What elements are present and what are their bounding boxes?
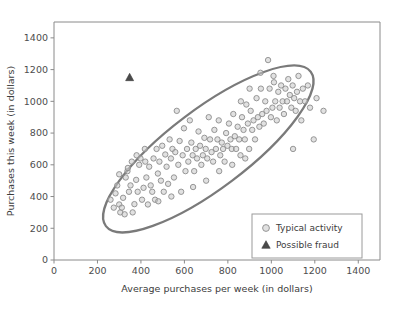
data-point-typical-activity	[189, 140, 194, 145]
data-point-typical-activity	[219, 140, 224, 145]
data-point-typical-activity	[122, 212, 127, 217]
data-point-typical-activity	[174, 108, 179, 113]
data-point-typical-activity	[135, 189, 140, 194]
data-point-typical-activity	[242, 137, 247, 142]
data-point-typical-activity	[141, 185, 146, 190]
data-point-typical-activity	[206, 115, 211, 120]
data-point-typical-activity	[146, 164, 151, 169]
x-tick-label: 400	[132, 265, 150, 276]
data-point-typical-activity	[271, 73, 276, 78]
data-point-typical-activity	[277, 105, 282, 110]
data-point-typical-activity	[250, 127, 255, 132]
data-point-typical-activity	[252, 137, 257, 142]
scatter-plot-figure: 0200400600800100012001400 02004006008001…	[0, 0, 399, 317]
data-point-typical-activity	[180, 153, 185, 158]
x-tick-label: 200	[88, 265, 106, 276]
data-point-typical-activity	[111, 205, 116, 210]
data-point-typical-activity	[284, 99, 289, 104]
x-tick-label: 1400	[346, 265, 370, 276]
data-point-typical-activity	[133, 177, 138, 182]
data-point-typical-activity	[168, 156, 173, 161]
y-tick-label: 600	[30, 159, 48, 170]
data-point-typical-activity	[173, 149, 178, 154]
data-point-typical-activity	[267, 86, 272, 91]
data-point-typical-activity	[216, 118, 221, 123]
data-point-typical-activity	[115, 183, 120, 188]
data-point-typical-activity	[128, 183, 133, 188]
x-tick-label: 800	[219, 265, 237, 276]
data-point-typical-activity	[223, 130, 228, 135]
data-point-typical-activity	[148, 183, 153, 188]
data-point-typical-activity	[290, 83, 295, 88]
data-point-typical-activity	[293, 108, 298, 113]
data-point-typical-activity	[270, 105, 275, 110]
data-point-typical-activity	[302, 99, 307, 104]
data-point-typical-activity	[165, 181, 170, 186]
data-point-typical-activity	[222, 159, 227, 164]
data-point-typical-activity	[233, 146, 238, 151]
data-point-typical-activity	[191, 168, 196, 173]
data-point-typical-activity	[258, 70, 263, 75]
data-point-typical-activity	[132, 201, 137, 206]
data-point-typical-activity	[305, 83, 310, 88]
y-tick-label: 0	[42, 254, 48, 265]
data-point-typical-activity	[300, 86, 305, 91]
data-point-typical-activity	[207, 137, 212, 142]
data-point-typical-activity	[202, 135, 207, 140]
data-point-typical-activity	[218, 153, 223, 158]
data-point-typical-activity	[178, 189, 183, 194]
data-point-typical-activity	[145, 202, 150, 207]
data-point-typical-activity	[239, 115, 244, 120]
data-point-typical-activity	[171, 175, 176, 180]
data-point-typical-activity	[299, 118, 304, 123]
data-point-typical-activity	[157, 159, 162, 164]
data-point-typical-activity	[246, 146, 251, 151]
data-point-typical-activity	[196, 129, 201, 134]
y-tick-label: 1400	[24, 32, 48, 43]
data-point-typical-activity	[130, 210, 135, 215]
data-point-typical-activity	[167, 137, 172, 142]
x-tick-label: 600	[175, 265, 193, 276]
y-axis-title: Purchases this week (in dollars)	[5, 66, 16, 216]
data-point-typical-activity	[144, 175, 149, 180]
data-point-typical-activity	[212, 127, 217, 132]
data-point-typical-activity	[311, 137, 316, 142]
data-point-possible-fraud	[126, 73, 134, 80]
data-point-typical-activity	[314, 95, 319, 100]
legend-marker-circle-icon	[263, 225, 270, 232]
data-point-typical-activity	[187, 118, 192, 123]
data-point-typical-activity	[213, 146, 218, 151]
data-point-typical-activity	[123, 175, 128, 180]
data-point-typical-activity	[125, 165, 130, 170]
data-point-typical-activity	[183, 168, 188, 173]
data-point-typical-activity	[161, 189, 166, 194]
y-tick-label: 800	[30, 127, 48, 138]
data-point-typical-activity	[294, 89, 299, 94]
data-point-typical-activity	[190, 184, 195, 189]
data-point-typical-activity	[199, 162, 204, 167]
data-point-typical-activity	[271, 80, 276, 85]
data-point-typical-activity	[176, 162, 181, 167]
data-point-typical-activity	[238, 99, 243, 104]
data-point-typical-activity	[235, 124, 240, 129]
data-point-typical-activity	[274, 118, 279, 123]
data-point-typical-activity	[281, 111, 286, 116]
data-point-typical-activity	[248, 108, 253, 113]
data-point-typical-activity	[181, 126, 186, 131]
data-point-typical-activity	[264, 108, 269, 113]
y-tick-label: 1200	[24, 64, 48, 75]
data-point-typical-activity	[254, 95, 259, 100]
y-tick-label: 1000	[24, 96, 48, 107]
data-point-typical-activity	[268, 115, 273, 120]
data-point-typical-activity	[143, 159, 148, 164]
y-tick-label: 400	[30, 191, 48, 202]
data-point-typical-activity	[129, 159, 134, 164]
data-point-typical-activity	[160, 143, 165, 148]
legend-box	[252, 214, 362, 258]
data-point-typical-activity	[108, 197, 113, 202]
data-point-typical-activity	[126, 189, 131, 194]
data-point-typical-activity	[296, 73, 301, 78]
x-tick-label: 1000	[259, 265, 283, 276]
data-point-typical-activity	[163, 152, 168, 157]
data-point-typical-activity	[151, 156, 156, 161]
